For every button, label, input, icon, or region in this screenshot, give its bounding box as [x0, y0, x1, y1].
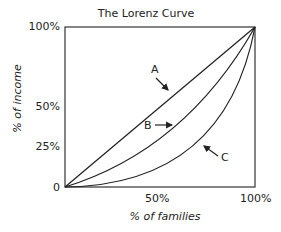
label-b: B	[144, 119, 152, 132]
plot-area: A B C	[0, 0, 281, 232]
label-a: A	[151, 63, 159, 76]
label-c: C	[221, 151, 229, 164]
